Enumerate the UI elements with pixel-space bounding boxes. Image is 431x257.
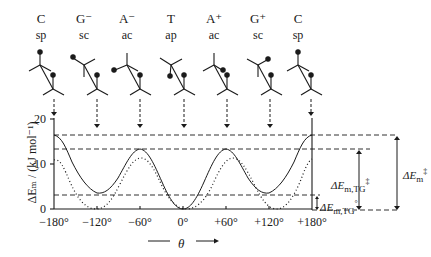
x-tick-plus-180: +180° — [290, 216, 334, 228]
x-tick-0: 0° — [161, 216, 205, 228]
x-tick-minus-180: −180° — [32, 216, 76, 228]
x-tick-plus-60: +60° — [204, 216, 248, 228]
annotation-delta-e-m-tg-barrier: ΔEm,TG‡ — [331, 176, 369, 195]
x-tick-plus-120: +120° — [247, 216, 291, 228]
torsion-energy-diagram: C sp G⁻ sc A⁻ ac T ap A⁺ ac G⁺ sc C sp — [0, 0, 431, 257]
x-axis-label-theta: θ — [178, 236, 184, 252]
conformer-a-minus-icon — [112, 53, 151, 95]
axes — [50, 118, 312, 210]
y-axis-label: ΔEₘ / (kJ mol⁻¹) — [25, 93, 40, 233]
conformer-t-icon — [160, 58, 195, 95]
conformer-c-left-icon — [29, 50, 64, 95]
theta-arrow-head-icon — [214, 239, 219, 244]
conformer-g-minus-icon — [71, 55, 108, 95]
x-tick-minus-120: −120° — [75, 216, 119, 228]
annotation-delta-e-m: ΔEm‡ — [403, 166, 427, 185]
solid-energy-curve — [54, 135, 312, 209]
annotation-delta-e-m-tg-energy: ΔEm,TG° — [320, 198, 358, 217]
conformer-g-plus-icon — [247, 57, 282, 95]
x-tick-minus-60: −60° — [118, 216, 162, 228]
dotted-energy-curve — [54, 158, 312, 209]
conformer-c-right-icon — [287, 50, 322, 95]
conformer-a-plus-icon — [203, 53, 238, 95]
pointer-arrows — [54, 99, 311, 124]
arrowheads — [51, 112, 314, 128]
annotation-arrows — [317, 138, 397, 207]
